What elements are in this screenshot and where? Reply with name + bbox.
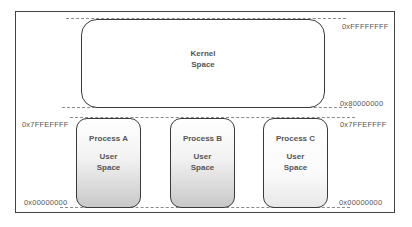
kernel-label-line1: Kernel [82, 48, 324, 59]
process-a-box: Process A User Space [76, 118, 141, 208]
process-a-label-line2: Space [77, 162, 140, 173]
address-kernel-bottom: 0x80000000 [340, 99, 383, 108]
process-b-user-space-label: User Space [171, 151, 234, 173]
address-user-top-left: 0x7FFEFFFF [22, 120, 69, 129]
process-b-name: Process B [171, 133, 234, 144]
process-c-box: Process C User Space [263, 118, 328, 208]
process-c-label-line2: Space [264, 162, 327, 173]
process-a-label-line1: User [77, 151, 140, 162]
kernel-label-line2: Space [82, 59, 324, 70]
process-a-name: Process A [77, 133, 140, 144]
process-a-user-space-label: User Space [77, 151, 140, 173]
address-user-bottom-right: 0x00000000 [339, 198, 382, 207]
address-user-top-right: 0x7FFEFFFF [340, 120, 387, 129]
process-c-label-line1: User [264, 151, 327, 162]
kernel-space-label: Kernel Space [82, 48, 324, 70]
address-user-bottom-left: 0x00000000 [24, 198, 67, 207]
process-b-label-line2: Space [171, 162, 234, 173]
address-kernel-top: 0xFFFFFFFF [342, 22, 389, 31]
process-b-label-line1: User [171, 151, 234, 162]
process-b-box: Process B User Space [170, 118, 235, 208]
process-c-name: Process C [264, 133, 327, 144]
kernel-space-box: Kernel Space [81, 19, 325, 108]
process-c-user-space-label: User Space [264, 151, 327, 173]
